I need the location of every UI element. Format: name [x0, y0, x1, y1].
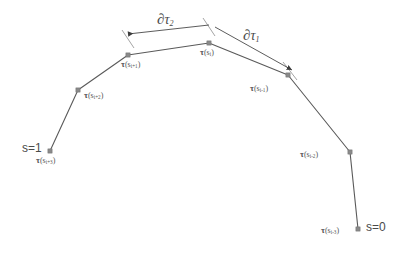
s-equals-zero-label: s=0	[366, 221, 386, 233]
node-marker-group	[48, 41, 360, 231]
node-i-minus-2-marker	[348, 150, 352, 154]
node-i-plus-2-marker	[76, 88, 80, 92]
partial-tau-2-label: ∂τ2	[157, 12, 173, 28]
tick-at-node-i-upper	[203, 18, 215, 36]
s-equals-one-label: s=1	[22, 142, 42, 154]
node-i-plus-2-label: τ(si+2)	[84, 91, 103, 100]
discretized-curve	[50, 43, 358, 229]
tick-at-node-i-plus-1	[122, 30, 134, 48]
node-i-minus-1-marker	[286, 73, 290, 77]
node-i-minus-3-marker	[356, 227, 360, 231]
node-i-label: τ(si)	[200, 48, 214, 57]
figure-canvas: ∂τ2∂τ1 τ(si+3)τ(si+2)τ(si+1)τ(si)τ(si-1)…	[0, 0, 402, 256]
diagram-svg	[0, 0, 402, 256]
node-i-plus-3-label: τ(si+3)	[36, 156, 55, 165]
partial-tau-1-label: ∂τ1	[243, 28, 259, 44]
node-i-plus-1-marker	[126, 53, 130, 57]
node-i-minus-3-label: τ(si-3)	[321, 226, 339, 235]
node-i-minus-2-label: τ(si-2)	[300, 150, 318, 159]
node-i-plus-1-label: τ(si+1)	[121, 60, 140, 69]
node-i-marker	[207, 41, 211, 45]
node-i-plus-3-marker	[48, 149, 52, 153]
node-i-minus-1-label: τ(si-1)	[250, 84, 268, 93]
